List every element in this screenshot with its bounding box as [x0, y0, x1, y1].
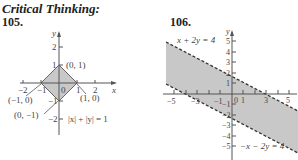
- svg-text:y: y: [225, 27, 230, 36]
- svg-text:−2: −2: [222, 111, 231, 120]
- svg-text:0: 0: [234, 96, 238, 105]
- svg-text:−1: −1: [222, 100, 231, 109]
- svg-text:−3: −3: [191, 97, 200, 106]
- svg-text:−3: −3: [222, 121, 231, 130]
- svg-text:1: 1: [241, 96, 245, 105]
- boundary-bottom-label: −x − 2y = 4: [240, 141, 285, 151]
- svg-text:5: 5: [226, 37, 230, 46]
- svg-text:5: 5: [286, 96, 290, 105]
- svg-text:4: 4: [226, 48, 230, 57]
- svg-text:3: 3: [264, 96, 268, 105]
- y-axis-arrow-icon: [230, 30, 234, 36]
- graph-106: −5 −3 −1 0 1 3 5 y 5 4 3 2 1 −1 −2 −3 −4…: [0, 0, 298, 160]
- svg-text:2: 2: [226, 69, 230, 78]
- svg-text:−5: −5: [222, 142, 231, 151]
- svg-text:−5: −5: [167, 97, 176, 106]
- svg-text:−4: −4: [222, 132, 231, 141]
- svg-text:3: 3: [226, 58, 230, 67]
- boundary-top-label: x + 2y = 4: [176, 35, 216, 45]
- svg-text:1: 1: [226, 79, 230, 88]
